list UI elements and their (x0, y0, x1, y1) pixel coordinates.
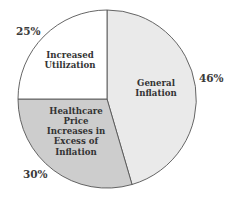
label-line: Utilization (35, 60, 105, 70)
label-general-inflation: General Inflation (124, 78, 188, 98)
label-line: General (124, 78, 188, 88)
label-increased-utilization: Increased Utilization (35, 50, 105, 70)
label-healthcare-price: Healthcare Price Increases in Excess of … (40, 106, 112, 157)
label-line: Increased (35, 50, 105, 60)
pct-increased-utilization: 25% (16, 25, 41, 37)
label-line: Inflation (124, 88, 188, 98)
label-line: Excess of (40, 136, 112, 146)
label-line: Healthcare (40, 106, 112, 116)
label-line: Inflation (40, 147, 112, 157)
pct-general-inflation: 46% (199, 72, 224, 84)
pct-healthcare-price: 30% (23, 168, 48, 180)
label-line: Increases in (40, 126, 112, 136)
label-line: Price (40, 116, 112, 126)
